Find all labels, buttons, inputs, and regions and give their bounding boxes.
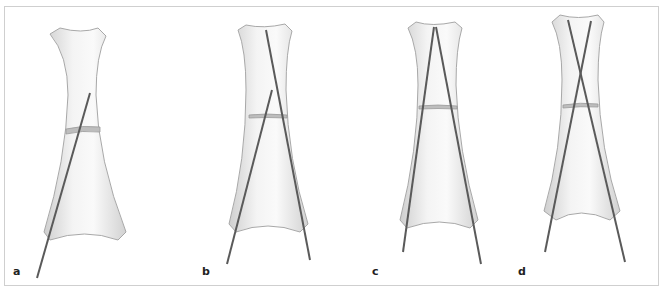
panel-label-b: b <box>202 265 210 278</box>
bone-b <box>229 24 308 232</box>
panel-a <box>37 28 126 278</box>
panel-label-d: d <box>518 265 526 278</box>
panel-label-c: c <box>372 265 379 278</box>
panel-d <box>544 15 625 262</box>
panel-c <box>400 22 481 264</box>
bone-diagram <box>0 0 664 291</box>
panel-label-a: a <box>13 265 20 278</box>
panel-b <box>227 24 310 264</box>
bone-c <box>400 22 478 228</box>
